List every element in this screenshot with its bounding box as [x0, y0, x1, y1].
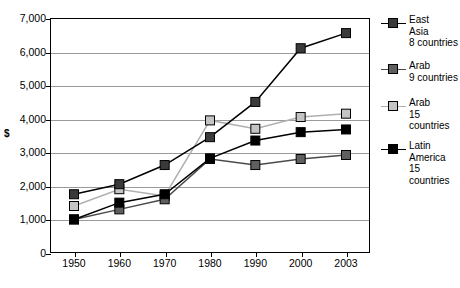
legend-label: Arab 9 countries	[409, 60, 458, 83]
x-tick-label: 2000	[289, 257, 312, 269]
y-tick-mark	[46, 187, 51, 188]
y-tick-mark	[46, 220, 51, 221]
legend-label: East Asia 8 countries	[409, 14, 458, 49]
legend-entry[interactable]: Latin America 15 countries	[381, 140, 460, 186]
x-tick-label: 1960	[108, 257, 131, 269]
y-tick-label: 0	[2, 248, 46, 259]
legend-key-icon	[381, 18, 406, 28]
legend-marker-icon	[388, 18, 398, 28]
x-tick-label: 1990	[244, 257, 267, 269]
legend-entry[interactable]: Arab 15 countries	[381, 97, 460, 132]
y-tick-mark	[46, 120, 51, 121]
y-tick-mark	[46, 53, 51, 54]
gridline	[51, 153, 369, 154]
y-tick-label: 5,000	[2, 80, 46, 91]
y-tick-mark	[46, 19, 51, 20]
plot-area	[50, 18, 370, 253]
y-tick-label: 2,000	[2, 181, 46, 192]
legend-label: Arab 15 countries	[409, 97, 460, 132]
legend-key-icon	[381, 144, 406, 154]
gridline	[51, 187, 369, 188]
x-tick-label: 1970	[153, 257, 176, 269]
legend-entry[interactable]: Arab 9 countries	[381, 60, 458, 83]
legend-marker-icon	[388, 144, 398, 154]
line-chart-figure: $ 7,0006,0005,0004,0003,0002,0001,0000 E…	[0, 0, 460, 288]
legend-label: Latin America 15 countries	[409, 140, 460, 186]
x-tick-label: 1950	[62, 257, 85, 269]
gridline	[51, 220, 369, 221]
legend-entry[interactable]: East Asia 8 countries	[381, 14, 458, 49]
legend-key-icon	[381, 101, 406, 111]
y-tick-label: 6,000	[2, 46, 46, 57]
x-tick-label: 1980	[198, 257, 221, 269]
y-tick-mark	[46, 153, 51, 154]
y-tick-label: 1,000	[2, 214, 46, 225]
x-tick-label: 2003	[334, 257, 357, 269]
y-tick-mark	[46, 86, 51, 87]
gridline	[51, 120, 369, 121]
legend-marker-icon	[388, 64, 398, 74]
y-tick-label: 3,000	[2, 147, 46, 158]
y-tick-label: 7,000	[2, 13, 46, 24]
gridline	[51, 53, 369, 54]
y-tick-mark	[46, 254, 51, 255]
legend-marker-icon	[388, 101, 398, 111]
gridline	[51, 86, 369, 87]
y-tick-label: 4,000	[2, 113, 46, 124]
legend-key-icon	[381, 64, 406, 74]
y-axis-tick-labels: 7,0006,0005,0004,0003,0002,0001,0000	[0, 0, 46, 288]
